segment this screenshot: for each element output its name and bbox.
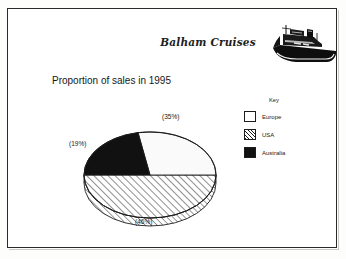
legend-item-usa: USA [244,128,322,141]
pie-label-usa: (46%) [135,218,152,225]
legend-swatch-australia [244,147,256,158]
pie-slice-europe [138,132,216,175]
legend-item-europe: Europe [244,110,322,123]
legend-label-usa: USA [262,132,274,138]
cruise-ship-icon [270,23,338,65]
brand-title: Balham Cruises [148,36,268,48]
pie-chart [80,113,220,229]
pie-label-australia: (19%) [69,140,86,147]
legend-item-australia: Australia [244,146,322,159]
legend-label-europe: Europe [262,114,281,120]
legend: Key Europe USA Australia [244,97,322,164]
legend-swatch-usa [244,129,256,140]
scanned-sheet: Balham Cruises [0,0,346,259]
chart-subtitle: Proportion of sales in 1995 [52,75,171,86]
pie-label-europe: (35%) [162,113,179,120]
legend-label-australia: Australia [262,150,285,156]
slide-frame: Balham Cruises [7,8,337,248]
legend-title: Key [246,97,302,103]
legend-swatch-europe [244,111,256,122]
pie-slice-australia [84,133,150,175]
